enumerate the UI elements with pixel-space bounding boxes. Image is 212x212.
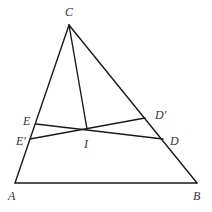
segment-ca <box>15 25 69 183</box>
segment-bc <box>69 25 197 183</box>
label-d: D <box>169 134 179 148</box>
label-e: E <box>22 114 31 128</box>
label-a: A <box>7 189 16 203</box>
label-b: B <box>193 189 201 203</box>
segment-ci <box>69 25 87 129</box>
label-d-prime: D′ <box>154 108 167 122</box>
label-i: I <box>83 137 89 151</box>
segment-e-prime-d-prime <box>30 118 145 139</box>
triangle-diagram: C A B E E′ I D D′ <box>0 0 212 212</box>
label-c: C <box>65 5 74 19</box>
label-e-prime: E′ <box>15 134 26 148</box>
